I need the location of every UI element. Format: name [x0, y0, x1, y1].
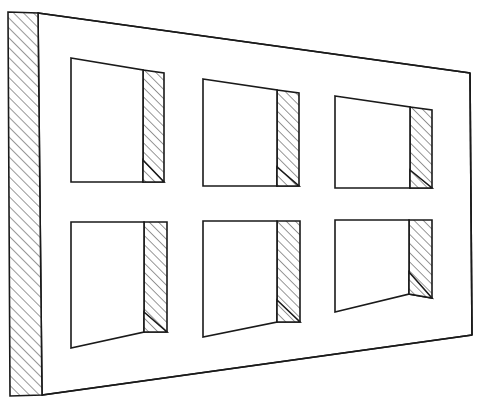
opening-bottom-center: [203, 221, 300, 337]
wall-section-strip: [8, 12, 42, 396]
opening-top-left: [71, 58, 164, 182]
opening-void: [335, 96, 410, 188]
opening-void: [203, 79, 277, 186]
opening-void: [203, 221, 277, 337]
opening-void: [71, 222, 144, 348]
opening-top-center: [203, 79, 299, 186]
opening-top-right: [335, 96, 432, 188]
wall-perspective-drawing: [0, 0, 479, 406]
opening-bottom-left: [71, 222, 167, 348]
opening-void: [71, 58, 143, 182]
drawing-canvas: [0, 0, 479, 406]
